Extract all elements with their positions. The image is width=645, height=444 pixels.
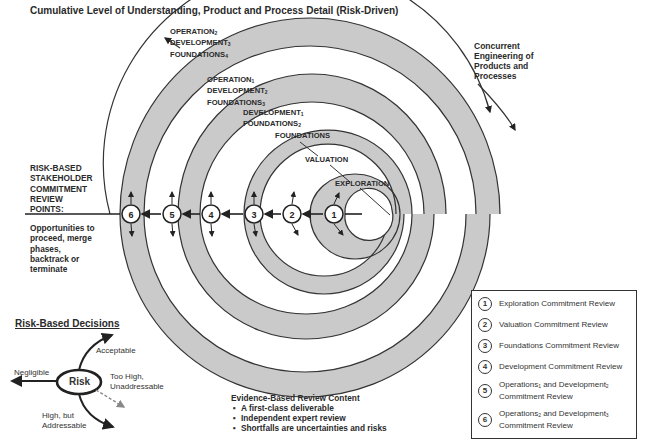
svg-text:4: 4	[208, 210, 213, 220]
risk-too-high: Too High,Unaddressable	[110, 372, 164, 392]
risk-center-label: Risk	[69, 377, 90, 387]
label-dev1-found2: DEVELOPMENT1 FOUNDATIONS2	[243, 108, 304, 131]
number-circle-icon: 5	[478, 384, 492, 398]
risk-high-but-addressable: High, butAddressable	[42, 411, 86, 431]
evidence-bullet: A first-class deliverable	[231, 403, 387, 413]
svg-text:2: 2	[289, 210, 294, 220]
svg-text:3: 3	[251, 210, 256, 220]
number-circle-icon: 3	[478, 339, 492, 353]
number-circle-icon: 6	[478, 413, 492, 427]
number-circle-icon: 2	[478, 318, 492, 332]
legend-item-1: 1Exploration Commitment Review	[478, 297, 615, 311]
legend-item-6: 6Operations2 and Development3Commitment …	[478, 409, 609, 430]
svg-text:5: 5	[169, 210, 174, 220]
legend-item-2: 2Valuation Commitment Review	[478, 318, 608, 332]
risk-decisions-title: Risk-Based Decisions	[15, 319, 120, 329]
label-exploration: EXPLORATION	[335, 179, 389, 188]
review-point-2: 2	[283, 192, 301, 235]
label-op1-dev2-found3: OPERATION1 DEVELOPMENT2 FOUNDATIONS3	[207, 75, 268, 109]
legend-item-5: 5Operations1 and Development2Commitment …	[478, 380, 609, 401]
opportunities-label: Opportunities to proceed, merge phases, …	[30, 223, 95, 274]
legend-item-3: 3Foundations Commitment Review	[478, 339, 619, 353]
evidence-content: Evidence-Based Review Content A first-cl…	[231, 393, 387, 433]
evidence-bullet: Independent expert review	[231, 413, 387, 423]
legend-box: 1Exploration Commitment Review 2Valuatio…	[471, 290, 637, 439]
review-points-label: RISK-BASED STAKEHOLDER COMMITMENT REVIEW…	[30, 163, 93, 214]
evidence-bullet: Shortfalls are uncertainties and risks	[231, 423, 387, 433]
concurrent-engineering-label: Concurrent Engineering of Products and P…	[474, 41, 534, 81]
risk-negligible: Negligible	[14, 368, 49, 378]
svg-text:6: 6	[128, 210, 133, 220]
diagram-title: Cumulative Level of Understanding, Produ…	[30, 5, 398, 17]
svg-text:1: 1	[331, 210, 336, 220]
number-circle-icon: 1	[478, 297, 492, 311]
risk-acceptable: Acceptable	[96, 346, 136, 356]
review-point-4: 4	[202, 192, 220, 236]
legend-item-4: 4Development Commitment Review	[478, 360, 622, 374]
number-circle-icon: 4	[478, 360, 492, 374]
label-foundations: FOUNDATIONS	[275, 131, 330, 140]
label-op2-dev3-found4: OPERATION2 DEVELOPMENT3 FOUNDATIONS4	[170, 27, 231, 61]
label-valuation: VALUATION	[305, 155, 348, 164]
